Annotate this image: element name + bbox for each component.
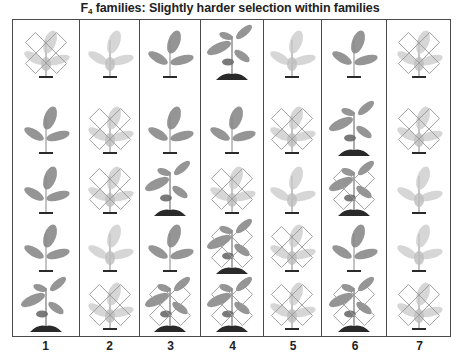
plant-faded-crossed-icon — [201, 158, 263, 220]
plant-faded-icon — [264, 158, 321, 220]
plant-small-icon — [201, 98, 263, 160]
plant-large-icon — [322, 98, 387, 160]
plant-faded-crossed-icon — [264, 274, 321, 336]
title-text: families: Slightly harder selection with… — [92, 1, 379, 15]
plant-faded-crossed-icon — [80, 274, 140, 336]
family-label: 3 — [140, 339, 201, 353]
family-label: 4 — [201, 339, 264, 353]
plant-faded-icon — [387, 216, 450, 278]
family-column-6 — [322, 20, 388, 336]
plant-faded-crossed-icon — [80, 98, 140, 160]
plant-faded-crossed-icon — [387, 274, 450, 336]
plant-faded-crossed-icon — [387, 22, 450, 84]
plant-small-icon — [13, 216, 79, 278]
family-labels: 1234567 — [12, 339, 451, 353]
plant-large-crossed-icon — [322, 158, 387, 220]
family-column-4 — [201, 20, 264, 336]
family-column-5 — [264, 20, 322, 336]
plant-small-icon — [140, 22, 200, 84]
plant-faded-crossed-icon — [80, 158, 140, 220]
plant-large-crossed-icon — [201, 274, 263, 336]
plant-small-icon — [13, 98, 79, 160]
figure-title: F4 families: Slightly harder selection w… — [0, 1, 460, 16]
plant-faded-icon — [387, 158, 450, 220]
plant-faded-crossed-icon — [13, 22, 79, 84]
plant-faded-icon — [264, 22, 321, 84]
plant-small-icon — [322, 22, 387, 84]
plant-faded-crossed-icon — [264, 216, 321, 278]
plant-large-icon — [201, 22, 263, 84]
family-column-1 — [13, 20, 80, 336]
plant-large-crossed-icon — [140, 274, 200, 336]
plant-large-crossed-icon — [201, 216, 263, 278]
plant-small-icon — [140, 98, 200, 160]
family-grid — [12, 19, 451, 337]
family-column-3 — [140, 20, 201, 336]
family-label: 1 — [12, 339, 79, 353]
plant-large-icon — [140, 158, 200, 220]
plant-large-crossed-icon — [322, 274, 387, 336]
plant-faded-crossed-icon — [387, 98, 450, 160]
plant-small-icon — [13, 158, 79, 220]
title-prefix: F — [80, 1, 88, 15]
plant-large-icon — [13, 274, 79, 336]
family-label: 2 — [79, 339, 140, 353]
family-column-2 — [80, 20, 141, 336]
plant-faded-icon — [80, 216, 140, 278]
plant-faded-crossed-icon — [264, 98, 321, 160]
family-label: 6 — [322, 339, 388, 353]
plant-faded-icon — [80, 22, 140, 84]
family-label: 5 — [264, 339, 322, 353]
plant-small-icon — [140, 216, 200, 278]
family-column-7 — [387, 20, 450, 336]
family-label: 7 — [388, 339, 451, 353]
plant-small-icon — [322, 216, 387, 278]
